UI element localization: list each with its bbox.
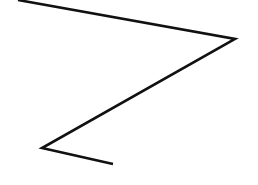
background	[0, 0, 258, 185]
drawing-canvas	[0, 0, 258, 185]
